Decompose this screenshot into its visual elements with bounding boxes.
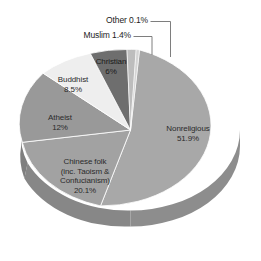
slice-label-atheist-name: Atheist	[30, 113, 90, 123]
slice-label-buddhist-value: 8.5%	[42, 85, 104, 95]
slice-label-buddhist-name: Buddhist	[42, 75, 104, 85]
callout-label-other: Other 0.1%	[106, 15, 148, 25]
slice-label-chinese-folk-value: 20.1%	[36, 186, 134, 196]
pie-chart-figure: Other 0.1% Muslim 1.4% Christian 6% Budd…	[0, 0, 261, 261]
callout-label-other-text: Other 0.1%	[106, 15, 148, 25]
slice-label-chinese-folk-name: Chinese folk	[36, 157, 134, 167]
callout-label-muslim-text: Muslim 1.4%	[83, 30, 131, 40]
slice-label-chinese-folk-detail-1: (inc. Taoism &	[36, 167, 134, 177]
slice-label-nonreligious-value: 51.9%	[150, 134, 226, 144]
slice-label-christian: Christian 6%	[83, 57, 139, 76]
slice-label-chinese-folk: Chinese folk (inc. Taoism & Confucianism…	[36, 157, 134, 195]
leader-line-other	[151, 22, 171, 58]
slice-label-atheist-value: 12%	[30, 123, 90, 133]
slice-label-nonreligious: Nonreligious 51.9%	[150, 124, 226, 143]
slice-label-nonreligious-name: Nonreligious	[150, 124, 226, 134]
slice-label-buddhist: Buddhist 8.5%	[42, 75, 104, 94]
slice-label-atheist: Atheist 12%	[30, 113, 90, 132]
slice-label-chinese-folk-detail-2: Confucianism)	[36, 176, 134, 186]
slice-label-christian-name: Christian	[83, 57, 139, 67]
callout-label-muslim: Muslim 1.4%	[83, 30, 131, 40]
